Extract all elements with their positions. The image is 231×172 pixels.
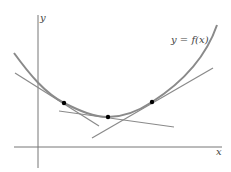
tangent-line-middle — [59, 111, 174, 127]
x-axis-label: x — [216, 146, 222, 157]
tangency-point-middle — [106, 115, 110, 119]
y-axis-label: y — [40, 12, 46, 23]
tangency-point-right — [150, 100, 154, 104]
diagram-canvas — [0, 0, 231, 172]
tangency-point-left — [62, 101, 66, 105]
curve-label: y = f(x) — [171, 34, 209, 45]
